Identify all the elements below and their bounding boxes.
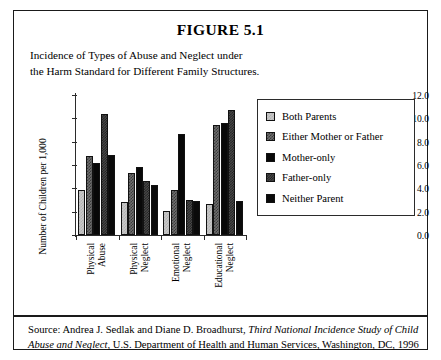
bar: [186, 200, 193, 235]
bar-chart: Number of Children per 1,000 0.02.04.06.…: [14, 83, 429, 315]
bar: [108, 155, 115, 236]
bar: [206, 204, 213, 236]
source-suffix: , U.S. Department of Health and Human Se…: [107, 339, 418, 350]
footer-divider: [14, 315, 427, 317]
chart-legend: Both ParentsEither Mother or FatherMothe…: [257, 99, 415, 216]
x-axis-tick-mark: [76, 235, 77, 240]
bar: [221, 123, 228, 235]
legend-swatch-icon: [266, 153, 275, 162]
legend-swatch-icon: [266, 194, 275, 203]
figure-page: FIGURE 5.1 Incidence of Types of Abuse a…: [13, 10, 428, 350]
bar: [163, 211, 170, 236]
legend-swatch-icon: [266, 112, 275, 121]
y-axis-tick-mark: [72, 142, 77, 143]
y-axis-tick-mark: [72, 188, 77, 189]
x-axis-category-label-line: Physical: [129, 243, 140, 313]
x-axis-category-label-line: Educational: [214, 243, 225, 313]
bar: [86, 156, 93, 235]
figure-caption-line-2: the Harm Standard for Different Family S…: [30, 64, 360, 80]
x-axis-category-label: PhysicalNeglect: [129, 243, 150, 313]
bar: [213, 125, 220, 235]
legend-swatch-icon: [266, 132, 275, 141]
bar: [228, 110, 235, 235]
x-axis-category-label-line: Neglect: [139, 243, 150, 313]
x-axis-category-label-line: Emotional: [171, 243, 182, 313]
y-axis-tick-mark: [72, 95, 77, 96]
bar: [121, 202, 128, 235]
x-axis-tick-mark: [161, 235, 162, 240]
x-axis-tick-mark: [246, 235, 247, 240]
source-title-part-1: Third National Incidence Study of Child: [248, 324, 418, 335]
legend-item: Both Parents: [258, 106, 414, 127]
bar: [171, 190, 178, 236]
y-axis-label: Number of Children per 1,000: [37, 122, 48, 272]
bar: [101, 114, 108, 235]
bar: [128, 173, 135, 235]
legend-label: Mother-only: [282, 152, 335, 163]
figure-caption-line-1: Incidence of Types of Abuse and Neglect …: [30, 48, 360, 64]
legend-item: Either Mother or Father: [258, 127, 414, 148]
x-axis-tick-mark: [204, 235, 205, 240]
x-axis-category-label-line: Neglect: [182, 243, 193, 313]
legend-swatch-icon: [266, 173, 275, 182]
x-axis-category-label: PhysicalAbuse: [86, 243, 107, 313]
figure-caption: Incidence of Types of Abuse and Neglect …: [30, 48, 360, 80]
legend-label: Both Parents: [282, 111, 336, 122]
bar: [136, 167, 143, 235]
y-axis-tick-label: 0.0: [395, 230, 429, 241]
bar: [236, 201, 243, 235]
bar: [143, 181, 150, 235]
y-axis-tick-mark: [72, 212, 77, 213]
y-axis-tick-mark: [72, 165, 77, 166]
legend-item: Neither Parent: [258, 188, 414, 209]
x-axis-category-label: EmotionalNeglect: [171, 243, 192, 313]
x-axis-category-label-line: Neglect: [224, 243, 235, 313]
source-prefix: Source: Andrea J. Sedlak and Diane D. Br…: [28, 324, 248, 335]
legend-item: Mother-only: [258, 147, 414, 168]
legend-item: Father-only: [258, 168, 414, 189]
figure-number-title: FIGURE 5.1: [14, 21, 427, 39]
bar: [178, 134, 185, 236]
bar: [93, 163, 100, 235]
source-note: Source: Andrea J. Sedlak and Diane D. Br…: [28, 322, 420, 352]
bar: [78, 190, 85, 236]
x-axis-tick-mark: [119, 235, 120, 240]
y-axis-tick-mark: [72, 118, 77, 119]
legend-label: Father-only: [282, 172, 331, 183]
x-axis-category-label-line: Physical: [86, 243, 97, 313]
legend-label: Either Mother or Father: [282, 131, 383, 142]
source-title-part-2: Abuse and Neglect: [28, 339, 107, 350]
x-axis-category-label: EducationalNeglect: [214, 243, 235, 313]
bar: [193, 201, 200, 235]
legend-label: Neither Parent: [282, 193, 343, 204]
x-axis-category-label-line: Abuse: [97, 243, 108, 313]
bar: [151, 185, 158, 235]
